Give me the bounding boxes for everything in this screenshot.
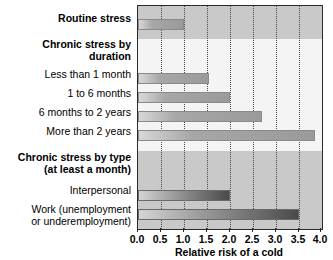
ticklabel-4-0: 4.0 bbox=[313, 233, 328, 245]
ticklabel-0-0: 0.0 bbox=[130, 233, 145, 245]
ticklabel-0-5: 0.5 bbox=[153, 233, 168, 245]
row-label-6-months-to-2-years: 6 months to 2 years bbox=[0, 107, 131, 119]
ticklabel-3-5: 3.5 bbox=[291, 233, 306, 245]
ticklabel-1-0: 1.0 bbox=[176, 233, 191, 245]
row-label-routine-stress: Routine stress bbox=[0, 13, 131, 25]
x-axis-tick-labels: 0.0 0.5 1.0 1.5 2.0 2.5 3.0 3.5 4.0 bbox=[137, 233, 321, 246]
section-heading-chronic-type: Chronic stress by type (at least a month… bbox=[0, 152, 131, 175]
category-label-column: Routine stress Chronic stress by duratio… bbox=[0, 0, 134, 230]
ticklabel-2-0: 2.0 bbox=[222, 233, 237, 245]
tick-1-5 bbox=[206, 228, 207, 232]
bar-routine-stress bbox=[138, 19, 184, 30]
row-label-less-than-1-month: Less than 1 month bbox=[0, 69, 131, 81]
tick-2-5 bbox=[252, 228, 253, 232]
bar-more-than-2-years bbox=[138, 130, 315, 141]
bar-work bbox=[138, 209, 299, 220]
tick-4-0 bbox=[320, 228, 321, 232]
tick-2-0 bbox=[229, 228, 230, 232]
relative-risk-bar-chart: Routine stress Chronic stress by duratio… bbox=[0, 0, 333, 260]
bar-1-to-6-months bbox=[138, 92, 230, 103]
gridline-3-5 bbox=[299, 6, 300, 229]
bar-less-than-1-month bbox=[138, 73, 209, 84]
ticklabel-2-5: 2.5 bbox=[245, 233, 260, 245]
row-label-work: Work (unemployment or underemployment) bbox=[0, 204, 131, 227]
section-heading-chronic-duration: Chronic stress by duration bbox=[0, 39, 131, 62]
tick-1-0 bbox=[183, 228, 184, 232]
ticklabel-3-0: 3.0 bbox=[268, 233, 283, 245]
ticklabel-1-5: 1.5 bbox=[199, 233, 214, 245]
bar-6-months-to-2-years bbox=[138, 111, 262, 122]
tick-3-5 bbox=[298, 228, 299, 232]
row-label-1-to-6-months: 1 to 6 months bbox=[0, 88, 131, 100]
row-label-more-than-2-years: More than 2 years bbox=[0, 126, 131, 138]
plot-area bbox=[137, 5, 323, 230]
bar-interpersonal bbox=[138, 190, 230, 201]
tick-0-0 bbox=[137, 228, 138, 232]
tick-3-0 bbox=[275, 228, 276, 232]
row-label-interpersonal: Interpersonal bbox=[0, 185, 131, 197]
x-axis-title: Relative risk of a cold bbox=[137, 246, 321, 259]
gridline-3-0 bbox=[276, 6, 277, 229]
tick-0-5 bbox=[160, 228, 161, 232]
